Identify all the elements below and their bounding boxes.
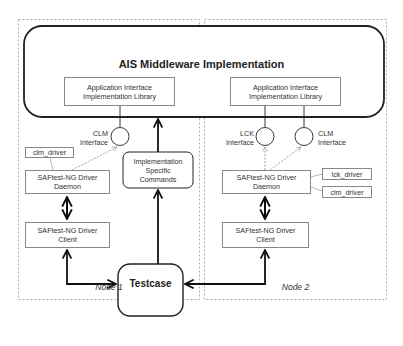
node1-library-line2: Implementation Library [83,92,156,101]
node2-library-line2: Implementation Library [249,92,322,101]
node2-library-line1: Application Interface [249,83,322,92]
node1-clm-interface-label: CLM Interface [74,129,108,147]
interface-suffix: Interface [220,138,254,147]
node2-lck-interface-label: LCK Interface [220,129,254,147]
daemon-line1: SAFtest-NG Driver [38,173,98,182]
node2-daemon-box: SAFtest-NG Driver Daemon [222,170,311,194]
node2-clm-interface-label: CLM Interface [318,129,354,147]
node1-daemon-box: SAFtest-NG Driver Daemon [25,170,110,194]
daemon-line2: Daemon [38,182,98,191]
clm-interface-icon-node2 [295,128,313,146]
interface-name: CLM [318,129,354,138]
interface-name: CLM [74,129,108,138]
impl-line1: Implementation [123,157,193,166]
lck-interface-icon-node2 [256,128,274,146]
impl-line2: Specific [123,166,193,175]
interface-suffix: Interface [318,138,354,147]
impl-specific-label: Implementation Specific Commands [123,157,193,184]
middleware-title: AIS Middleware Implementation [0,58,403,70]
client-line2: Client [236,235,296,244]
node2-library-box: Application Interface Implementation Lib… [230,77,341,106]
node2-lck-driver-box: lck_driver [322,168,372,180]
node2-clm-driver-box: clm_driver [322,186,372,198]
interface-name: LCK [220,129,254,138]
daemon-line2: Daemon [237,182,297,191]
clm-interface-icon-node1 [111,128,129,146]
client-line1: SAFtest-NG Driver [236,226,296,235]
client-line1: SAFtest-NG Driver [38,226,98,235]
impl-line3: Commands [123,175,193,184]
node1-clm-driver-box: clm_driver [25,147,74,158]
daemon-line1: SAFtest-NG Driver [237,173,297,182]
node2-client-box: SAFtest-NG Driver Client [222,222,309,248]
client-line2: Client [38,235,98,244]
node1-library-box: Application Interface Implementation Lib… [64,77,175,106]
node1-library-line1: Application Interface [83,83,156,92]
node1-label: Node 1 [18,282,200,292]
interface-suffix: Interface [74,138,108,147]
node2-label: Node 2 [204,282,387,292]
node1-client-box: SAFtest-NG Driver Client [25,222,110,248]
